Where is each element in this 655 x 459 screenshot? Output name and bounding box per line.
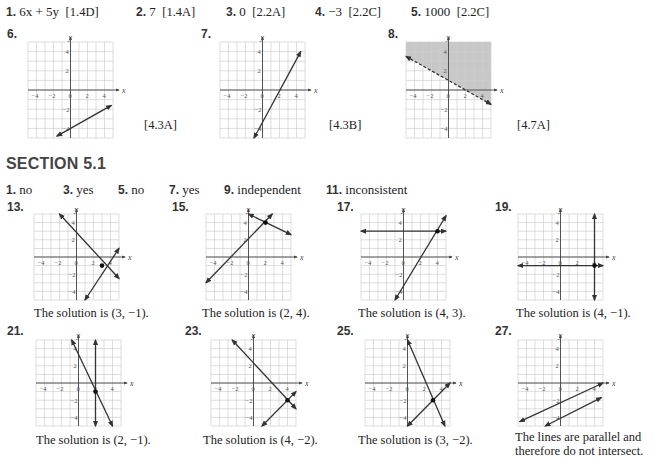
- svg-text:−2: −2: [427, 92, 434, 99]
- svg-text:2: 2: [72, 236, 75, 243]
- svg-text:−2: −2: [255, 106, 262, 113]
- svg-text:−2: −2: [69, 271, 76, 278]
- svg-text:−2: −2: [539, 385, 546, 392]
- svg-text:x: x: [121, 86, 126, 95]
- svg-text:2: 2: [264, 259, 267, 266]
- graph-19: xy−4−202442−2−4: [512, 204, 617, 304]
- problem-8-number: 8.: [388, 27, 398, 41]
- svg-text:−2: −2: [49, 92, 56, 99]
- svg-text:x: x: [127, 253, 132, 262]
- svg-text:2: 2: [423, 385, 426, 392]
- svg-text:x: x: [611, 379, 616, 388]
- graph-15: xy−4−202442−2−4: [200, 204, 305, 304]
- svg-text:−4: −4: [210, 259, 218, 266]
- svg-text:2: 2: [399, 236, 402, 243]
- svg-text:2: 2: [66, 67, 69, 74]
- problem-25-caption: The solution is (3, −2).: [358, 433, 473, 448]
- svg-text:4: 4: [111, 385, 115, 392]
- svg-text:−4: −4: [522, 385, 530, 392]
- svg-text:−4: −4: [38, 259, 46, 266]
- problem-27-caption-line2: therefore do not intersect.: [515, 444, 643, 459]
- problem-17-number: 17.: [337, 200, 354, 214]
- svg-text:−2: −2: [241, 271, 248, 278]
- svg-text:2: 2: [269, 385, 272, 392]
- svg-text:−4: −4: [241, 288, 249, 295]
- svg-text:y: y: [558, 205, 563, 214]
- svg-text:−4: −4: [365, 259, 373, 266]
- svg-text:0: 0: [406, 385, 409, 392]
- svg-text:−4: −4: [32, 92, 40, 99]
- svg-text:−4: −4: [40, 385, 48, 392]
- svg-text:−4: −4: [224, 92, 232, 99]
- svg-text:2: 2: [576, 385, 579, 392]
- problem-17-caption: The solution is (4, 3).: [358, 306, 466, 321]
- svg-text:−4: −4: [441, 125, 449, 132]
- svg-text:0: 0: [559, 385, 562, 392]
- review-item-2: 2. 7 [1.4A]: [136, 4, 195, 20]
- svg-text:x: x: [454, 253, 459, 262]
- graph-17: xy−4−202442−2−4: [355, 204, 460, 304]
- svg-text:−2: −2: [57, 385, 64, 392]
- review-item-1: 1. 6x + 5y [1.4D]: [6, 4, 99, 20]
- problem-6-ref: [4.3A]: [144, 118, 177, 133]
- graph-7: xy−4−202442−2−4: [214, 32, 319, 142]
- svg-text:y: y: [251, 331, 256, 340]
- review-item-3: 3. 0 [2.2A]: [226, 4, 285, 20]
- review-item-5: 5. 1000 [2.2C]: [411, 4, 489, 20]
- graph-21: xy−4−202442−2−4: [30, 330, 135, 430]
- answer-9: 9. independent: [224, 182, 301, 198]
- svg-text:0: 0: [252, 385, 255, 392]
- svg-text:2: 2: [464, 92, 467, 99]
- svg-text:0: 0: [402, 259, 405, 266]
- svg-text:0: 0: [77, 385, 80, 392]
- svg-text:2: 2: [403, 362, 406, 369]
- svg-text:2: 2: [86, 92, 89, 99]
- problem-25-number: 25.: [337, 324, 354, 338]
- svg-text:4: 4: [295, 92, 299, 99]
- problem-27-number: 27.: [495, 324, 512, 338]
- svg-text:x: x: [611, 253, 616, 262]
- svg-text:x: x: [299, 253, 304, 262]
- problem-21-caption: The solution is (2, −1).: [36, 433, 151, 448]
- problem-21-number: 21.: [7, 324, 24, 338]
- svg-text:−4: −4: [71, 414, 79, 421]
- svg-text:y: y: [558, 331, 563, 340]
- svg-text:x: x: [313, 86, 318, 95]
- problem-23-number: 23.: [185, 324, 202, 338]
- answer-3: 3. yes: [63, 182, 94, 198]
- graph-25: xy−4−202442−2−4: [359, 330, 464, 430]
- svg-text:2: 2: [249, 362, 252, 369]
- graph-13: xy−4−202442−2−4: [28, 204, 133, 304]
- svg-text:−2: −2: [386, 385, 393, 392]
- svg-text:−2: −2: [553, 271, 560, 278]
- svg-text:2: 2: [74, 362, 77, 369]
- svg-text:x: x: [499, 86, 504, 95]
- problem-6-number: 6.: [7, 27, 17, 41]
- svg-text:0: 0: [75, 259, 78, 266]
- svg-text:y: y: [446, 33, 451, 42]
- svg-text:−2: −2: [396, 271, 403, 278]
- problem-27-caption-line1: The lines are parallel and: [515, 430, 641, 445]
- svg-text:0: 0: [261, 92, 264, 99]
- graph-27: xy−4−202442−2−4: [512, 330, 617, 430]
- svg-text:2: 2: [556, 236, 559, 243]
- svg-text:−2: −2: [553, 397, 560, 404]
- svg-text:−4: −4: [369, 385, 377, 392]
- svg-text:−4: −4: [553, 288, 561, 295]
- review-item-4: 4. −3 [2.2C]: [315, 4, 381, 20]
- svg-text:0: 0: [69, 92, 72, 99]
- svg-text:0: 0: [447, 92, 450, 99]
- problem-15-caption: The solution is (2, 4).: [202, 306, 310, 321]
- svg-text:y: y: [405, 331, 410, 340]
- section-title: SECTION 5.1: [6, 155, 106, 173]
- svg-text:0: 0: [247, 259, 250, 266]
- svg-text:4: 4: [103, 92, 107, 99]
- svg-text:−2: −2: [55, 259, 62, 266]
- answer-11: 11. inconsistent: [326, 182, 407, 198]
- svg-text:−2: −2: [246, 397, 253, 404]
- problem-23-caption: The solution is (4, −2).: [203, 433, 318, 448]
- graph-23: xy−4−202442−2−4: [205, 330, 310, 430]
- svg-text:−2: −2: [241, 92, 248, 99]
- answer-7: 7. yes: [169, 182, 200, 198]
- svg-text:−2: −2: [382, 259, 389, 266]
